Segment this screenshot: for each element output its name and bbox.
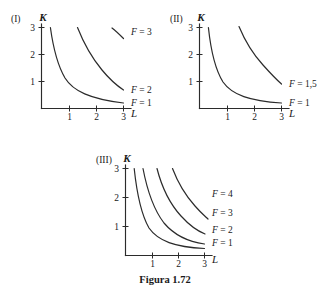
panel-two-y-axis-label: K (196, 11, 205, 23)
panel-three-x-axis-label: L (211, 253, 218, 265)
panel-three-curve-label-f2: F = 2 (211, 225, 233, 235)
panel-two-curve-f2 (239, 27, 282, 85)
panel-two-tag: (II) (170, 14, 183, 25)
panel-one-curve-label-f2: F = 2 (130, 85, 152, 95)
panel-three-xtick-label-2: 2 (176, 259, 181, 269)
panel-two-x-axis-label: L (288, 107, 295, 119)
panel-two-ytick-label-3: 3 (188, 23, 193, 33)
panel-one-ytick-label-2: 2 (30, 50, 35, 60)
panel-three-curve-f1 (134, 169, 204, 249)
panel-three-curve-label-f3: F = 3 (211, 208, 233, 218)
panel-three-ytick-label-3: 3 (114, 164, 119, 174)
panel-three-xtick-label-3: 3 (202, 259, 207, 269)
panel-two-ytick-label-2: 2 (188, 50, 193, 60)
panel-two-curve-label-f1: F = 1 (288, 98, 310, 108)
panel-one-xtick-label-2: 2 (94, 112, 99, 122)
panel-one-tag: (I) (11, 14, 21, 25)
panel-one-curve-f3 (112, 28, 124, 39)
panel-three-y-axis-label: K (122, 152, 131, 164)
panel-one-curve-label-f1: F = 1 (130, 98, 152, 108)
panel-one-ytick-label-1: 1 (30, 77, 35, 87)
panel-one-x-axis-label: L (130, 107, 137, 119)
panel-one-y-axis-label: K (38, 11, 47, 23)
panel-one-curve-f2 (78, 28, 124, 91)
panel-three-tag: (III) (96, 155, 112, 166)
panel-two-curve-label-f15: F = 1,5 (288, 79, 317, 89)
panel-one-ytick-label-3: 3 (30, 23, 35, 33)
figure-canvas: (I) K 3 2 1 1 2 3 L F = 3 (0, 0, 325, 294)
panel-three-curve-label-f1: F = 1 (211, 238, 233, 248)
figure-caption: Figura 1.72 (139, 274, 190, 285)
panel-three-curve-label-f4: F = 4 (211, 189, 233, 199)
panel-one-curve-f1 (50, 28, 123, 104)
panel-one-xtick-label-3: 3 (121, 112, 126, 122)
panel-two-xtick-label-2: 2 (252, 112, 257, 122)
panel-three-curve-f3 (157, 169, 205, 235)
figure-1-72: (I) K 3 2 1 1 2 3 L F = 3 (0, 0, 325, 294)
panel-one-curve-label-f3: F = 3 (130, 27, 152, 37)
panel-two-xtick-label-1: 1 (225, 112, 230, 122)
panel-three-ytick-label-2: 2 (114, 193, 119, 203)
panel-one: (I) K 3 2 1 1 2 3 L F = 3 (11, 11, 152, 122)
panel-two-xtick-label-3: 3 (279, 112, 284, 122)
panel-three-xtick-label-1: 1 (150, 259, 155, 269)
panel-two-ytick-label-1: 1 (188, 77, 193, 87)
panel-three: (III) K 3 2 1 1 2 3 L F = 4 F = 3 F = 2 (96, 152, 233, 269)
panel-two: (II) K 3 2 1 1 2 3 L F = 1,5 F = 1 (170, 11, 317, 122)
panel-three-ytick-label-1: 1 (114, 222, 119, 232)
panel-one-xtick-label-1: 1 (67, 112, 72, 122)
